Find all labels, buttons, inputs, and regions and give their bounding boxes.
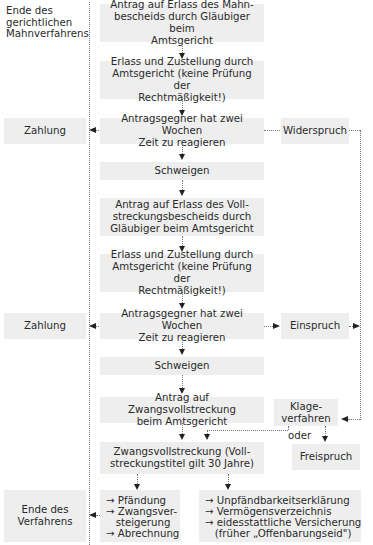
label-end-dunning: Ende des gerichtlichen Mahnverfahrens [6,5,89,40]
connector [228,474,229,484]
step-enforcement: Zwangsvollstreckung (Voll- streckungstit… [100,442,264,474]
objection-box: Widerspruch [281,118,349,144]
arrow-left-icon [89,512,96,518]
arrow-right-icon [273,323,280,329]
text: Widerspruch [283,125,347,137]
connector [207,430,288,431]
label-line: Mahnverfahrens [6,28,89,40]
connector [182,339,183,349]
connector [349,130,360,131]
text: oder [288,430,311,441]
step-silence-2: Schweigen [100,357,264,375]
step-apply-dunning-notice: Antrag auf Erlass des Mahn- bescheids du… [100,4,264,42]
lawsuit-box: Klage- verfahren [274,399,338,426]
or-label: oder [288,430,311,442]
connector [182,236,183,246]
list-item: steigerung [106,517,180,528]
arrow-down-icon [179,349,185,355]
connector [182,423,183,434]
text-line: verfahren [281,413,330,425]
list-item: → Vermögensverzeichnis [205,506,361,517]
right-connector-line [360,130,361,420]
connector [182,180,183,190]
step-apply-enforcement: Antrag auf Zwangsvollstreckung beim Amts… [100,397,264,423]
connector [264,130,280,131]
connector [182,292,183,303]
text-line: Erlass und Zustellung durch [103,56,261,68]
step-issue-delivery-2: Erlass und Zustellung durch Amtsgericht … [100,254,264,292]
end-procedure-box: Ende des Verfahrens [4,490,86,542]
arrow-right-icon [353,323,360,329]
text-line: Amtsgericht (keine Prüfung der [103,261,261,285]
connector [325,426,326,436]
text: Freispruch [300,451,353,463]
text-line: Klage- [281,401,330,413]
text-line: bescheids durch Gläubiger beim [103,11,261,35]
step-respond-two-weeks-1: Antragsgegner hat zwei Wochen Zeit zu re… [100,118,264,144]
text: Einspruch [290,320,340,332]
text-line: Zwangsvollstreckung (Voll- [110,446,254,458]
text-line: Antrag auf Erlass des Mahn- [103,0,261,11]
list-item: → Unpfändbarkeitserklärung [205,495,361,506]
text-line: Erlass und Zustellung durch [103,249,261,261]
text-line: Gläubiger beim Amtsgericht [110,223,254,235]
text-line: Antrag auf Zwangsvollstreckung [103,392,261,416]
list-item: → Abrechnung [106,528,180,539]
connector [182,42,183,53]
list-item: → Pfändung [106,495,180,506]
text-line: Verfahrens [18,516,73,528]
label-line: gerichtlichen [6,17,89,29]
arrow-down-icon [204,434,210,440]
text-line: Antragsgegner hat zwei Wochen [103,308,261,332]
step-respond-two-weeks-2: Antragsgegner hat zwei Wochen Zeit zu re… [100,313,264,339]
connector [182,375,183,388]
connector [182,99,183,110]
appeal-box: Einspruch [281,313,349,339]
left-connector-line [89,2,90,545]
acquittal-box: Freispruch [292,444,360,470]
insolvency-outcomes-list: → Unpfändbarkeitserklärung → Vermögensve… [199,490,361,542]
enforcement-measures-list: → Pfändung → Zwangsver- steigerung → Abr… [100,490,180,542]
arrow-left-icon [341,416,348,422]
connector [348,419,360,420]
step-apply-enforcement-notice: Antrag auf Erlass des Voll- streckungsbe… [100,198,264,236]
text-line: streckungstitel gilt 30 Jahre) [110,458,254,470]
arrow-down-icon [179,154,185,160]
label-line: Ende des [6,5,89,17]
text: Zahlung [24,320,66,332]
step-issue-delivery-1: Erlass und Zustellung durch Amtsgericht … [100,61,264,99]
text-line: streckungsbescheids durch [110,211,254,223]
list-item: (früher „Offenbarungseid") [205,528,361,539]
text: Zahlung [24,125,66,137]
connector [264,326,273,327]
list-item: → eidesstattliche Versicherung [205,517,361,528]
payment-box-1: Zahlung [4,118,86,144]
connector [137,474,138,484]
arrow-left-icon [89,127,96,133]
text-line: Antragsgegner hat zwei Wochen [103,113,261,137]
arrow-down-icon [179,190,185,196]
text-line: Ende des [18,504,73,516]
text-line: Amtsgericht (keine Prüfung der [103,68,261,92]
step-silence-1: Schweigen [100,162,264,180]
arrow-left-icon [89,323,96,329]
arrow-down-icon [322,436,328,442]
text: Schweigen [154,360,209,372]
text: Schweigen [154,165,209,177]
payment-box-2: Zahlung [4,313,86,339]
text-line: Antrag auf Erlass des Voll- [110,199,254,211]
connector [182,144,183,154]
arrow-down-icon [179,434,185,440]
list-item: → Zwangsver- [106,506,180,517]
